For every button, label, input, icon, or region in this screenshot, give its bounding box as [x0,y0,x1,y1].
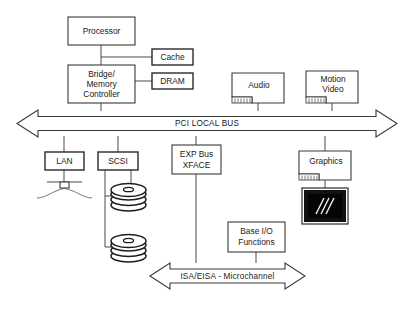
bridge-label-line1: Bridge/ [88,69,115,79]
node-bridge-memory-controller[interactable]: Bridge/ Memory Controller [68,65,135,103]
pci-bus-label: PCI LOCAL BUS [175,119,240,128]
node-cache[interactable]: Cache [152,49,193,65]
exp-bus-label-line2: XFACE [183,160,211,170]
node-dram[interactable]: DRAM [152,73,193,89]
card-edge-connector-icon [232,97,252,103]
node-motion-video[interactable]: Motion Video [306,71,358,103]
pci-local-bus[interactable]: PCI LOCAL BUS [17,110,397,137]
disk-stack-icon [111,184,146,212]
audio-label: Audio [248,80,270,90]
dram-label: DRAM [160,76,185,86]
node-lan[interactable]: LAN [45,152,84,170]
node-processor[interactable]: Processor [68,17,135,45]
node-exp-bus-xface[interactable]: EXP Bus XFACE [172,145,221,174]
graphics-label: Graphics [309,156,343,166]
disk-stack-icon [111,235,146,263]
lan-label: LAN [56,156,72,166]
pci-architecture-diagram: Processor Cache DRAM Bridge/ Memory Cont… [0,0,414,310]
cache-label: Cache [160,52,185,62]
isa-bus-label: ISA/EISA - Microchannel [180,272,274,281]
node-audio[interactable]: Audio [232,73,284,103]
scsi-label: SCSI [108,156,128,166]
node-base-io-functions[interactable]: Base I/O Functions [228,222,285,252]
crt-monitor-icon [302,188,348,224]
base-io-label-line1: Base I/O [240,226,273,236]
bridge-label-line2: Memory [86,79,117,89]
isa-eisa-bus[interactable]: ISA/EISA - Microchannel [150,263,305,289]
node-graphics[interactable]: Graphics [299,151,351,180]
node-scsi[interactable]: SCSI [98,152,138,170]
base-io-label-line2: Functions [238,237,274,247]
card-edge-connector-icon [299,174,319,180]
exp-bus-label-line1: EXP Bus [180,149,213,159]
lan-transceiver-icon [37,182,92,198]
processor-label: Processor [83,26,121,36]
motion-video-label-line1: Motion [320,74,345,84]
card-edge-connector-icon [306,97,326,103]
bridge-label-line3: Controller [83,89,120,99]
diagram-canvas: Processor Cache DRAM Bridge/ Memory Cont… [0,0,414,310]
motion-video-label-line2: Video [322,84,344,94]
